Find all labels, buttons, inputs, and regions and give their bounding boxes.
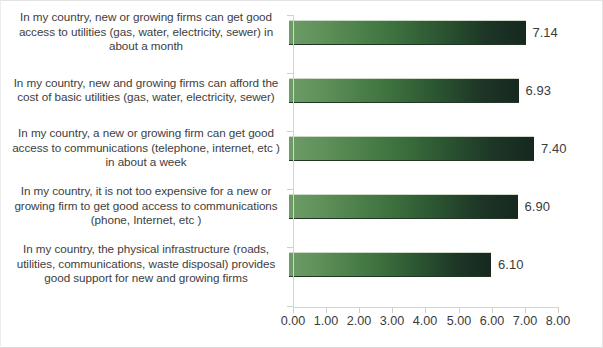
category-label: In my country, new and growing firms can…: [1, 76, 289, 105]
x-axis-tick: [326, 307, 327, 313]
y-axis-tick: [287, 131, 293, 132]
x-axis-tick-label: 0.00: [281, 314, 306, 328]
category-label: In my country, it is not too expensive f…: [1, 184, 289, 227]
bar-value-label: 6.10: [491, 252, 523, 277]
x-axis-tick-label: 1.00: [314, 314, 339, 328]
x-axis-tick-label: 4.00: [413, 314, 438, 328]
x-axis-tick-label: 3.00: [380, 314, 405, 328]
bar[interactable]: [289, 20, 526, 45]
x-axis-tick: [459, 307, 460, 313]
x-axis-tick: [359, 307, 360, 313]
plot-area: In my country, new or growing firms can …: [1, 3, 603, 307]
bar-value-label: 7.14: [526, 20, 558, 45]
bar-value-label: 6.90: [518, 194, 550, 219]
chart-row: In my country, a new or growing firm can…: [1, 119, 603, 177]
category-label: In my country, a new or growing firm can…: [1, 126, 289, 169]
x-axis-tick-label: 2.00: [347, 314, 372, 328]
bar-value-label: 6.93: [519, 78, 551, 103]
chart-row: In my country, it is not too expensive f…: [1, 177, 603, 235]
y-axis-tick: [287, 73, 293, 74]
bar-track: 7.40: [289, 119, 603, 177]
bar-track: 7.14: [289, 3, 603, 61]
x-axis-tick: [558, 307, 559, 313]
x-axis-tick: [392, 307, 393, 313]
bar[interactable]: [289, 78, 519, 103]
chart-row: In my country, new and growing firms can…: [1, 61, 603, 119]
y-axis-tick: [287, 247, 293, 248]
bar-track: 6.10: [289, 235, 603, 293]
bar-track: 6.93: [289, 61, 603, 119]
bar-chart: In my country, new or growing firms can …: [0, 0, 603, 348]
x-axis-tick-label: 7.00: [513, 314, 538, 328]
x-axis-tick-label: 8.00: [546, 314, 571, 328]
x-axis-tick: [293, 307, 294, 313]
chart-row: In my country, new or growing firms can …: [1, 3, 603, 61]
x-axis-tick: [525, 307, 526, 313]
x-axis-tick: [492, 307, 493, 313]
x-axis-tick: [425, 307, 426, 313]
bar[interactable]: [289, 252, 491, 277]
x-axis-tick-label: 6.00: [480, 314, 505, 328]
y-axis-line: [293, 15, 294, 307]
category-label: In my country, the physical infrastructu…: [1, 242, 289, 285]
chart-row: In my country, the physical infrastructu…: [1, 235, 603, 293]
bar-value-label: 7.40: [534, 136, 566, 161]
y-axis-tick: [287, 189, 293, 190]
y-axis-tick: [287, 15, 293, 16]
category-label: In my country, new or growing firms can …: [1, 10, 289, 53]
bar-track: 6.90: [289, 177, 603, 235]
bar[interactable]: [289, 136, 534, 161]
x-axis-tick-label: 5.00: [447, 314, 472, 328]
bar[interactable]: [289, 194, 518, 219]
